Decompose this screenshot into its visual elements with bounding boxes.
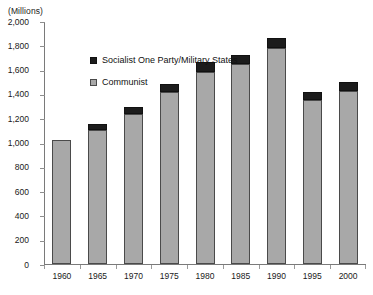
bar-column[interactable] [52, 140, 71, 264]
bar-segment-communist [339, 91, 358, 264]
y-axis-tick-label: 1,400 [8, 90, 29, 99]
bar-column[interactable] [160, 84, 179, 264]
bar-segment-socialist-one-party [124, 107, 143, 114]
y-axis-tick-label: 1,200 [8, 115, 29, 124]
y-axis-tick [40, 192, 45, 193]
bar-segment-communist [267, 48, 286, 264]
bar-column[interactable] [231, 55, 250, 264]
bar-segment-socialist-one-party [303, 92, 322, 100]
x-axis-line [44, 264, 366, 265]
bar-column[interactable] [267, 38, 286, 264]
plot-area: 2,0001,8001,6001,4001,2001,0008006004002… [44, 22, 366, 265]
bar-column[interactable] [124, 107, 143, 264]
y-axis-tick [40, 71, 45, 72]
bar-column[interactable] [88, 124, 107, 264]
y-axis-tick [40, 168, 45, 169]
x-axis-tick [294, 265, 295, 269]
y-axis-tick-label: 0 [24, 261, 29, 270]
y-axis-tick-label: 200 [15, 236, 29, 245]
bar-segment-communist [196, 72, 215, 264]
bar-column[interactable] [303, 92, 322, 264]
bar-segment-communist [303, 100, 322, 264]
x-axis-tick [187, 265, 188, 269]
legend-item[interactable]: Socialist One Party/Military States [90, 55, 238, 65]
legend-swatch-icon [90, 57, 97, 64]
y-axis-tick-label: 600 [15, 188, 29, 197]
x-axis-tick [151, 265, 152, 269]
y-axis-tick [40, 46, 45, 47]
x-axis-tick [80, 265, 81, 269]
x-axis-tick-label: 2000 [326, 271, 370, 281]
chart-container: (Millions) 2,0001,8001,6001,4001,2001,00… [0, 0, 373, 295]
y-axis-tick-label: 800 [15, 163, 29, 172]
y-axis-tick [40, 241, 45, 242]
y-axis-tick-label: 400 [15, 212, 29, 221]
x-axis-tick [365, 265, 366, 269]
bar-segment-socialist-one-party [160, 84, 179, 92]
legend-label: Communist [102, 77, 148, 87]
y-axis-units-label: (Millions) [8, 6, 43, 16]
y-axis-tick-label: 2,000 [8, 18, 29, 27]
legend-label: Socialist One Party/Military States [102, 55, 238, 65]
bar-segment-communist [231, 64, 250, 264]
x-axis-tick [223, 265, 224, 269]
x-axis-tick [116, 265, 117, 269]
bar-column[interactable] [339, 82, 358, 264]
bar-segment-communist [52, 140, 71, 264]
y-axis-tick [40, 119, 45, 120]
y-axis-tick [40, 144, 45, 145]
y-axis-tick [40, 216, 45, 217]
x-axis-tick [330, 265, 331, 269]
bar-column[interactable] [196, 62, 215, 264]
bar-segment-socialist-one-party [88, 124, 107, 130]
bar-segment-communist [160, 92, 179, 264]
bar-segment-socialist-one-party [339, 82, 358, 91]
legend-swatch-icon [90, 79, 97, 86]
bar-segment-communist [124, 114, 143, 264]
y-axis-tick [40, 22, 45, 23]
legend-item[interactable]: Communist [90, 77, 148, 87]
x-axis-tick [44, 265, 45, 269]
y-axis-tick-label: 1,800 [8, 42, 29, 51]
y-axis-tick-label: 1,600 [8, 66, 29, 75]
bar-segment-communist [88, 130, 107, 264]
y-axis-tick-label: 1,000 [8, 139, 29, 148]
x-axis-tick [259, 265, 260, 269]
y-axis-tick [40, 95, 45, 96]
bar-segment-socialist-one-party [267, 38, 286, 48]
